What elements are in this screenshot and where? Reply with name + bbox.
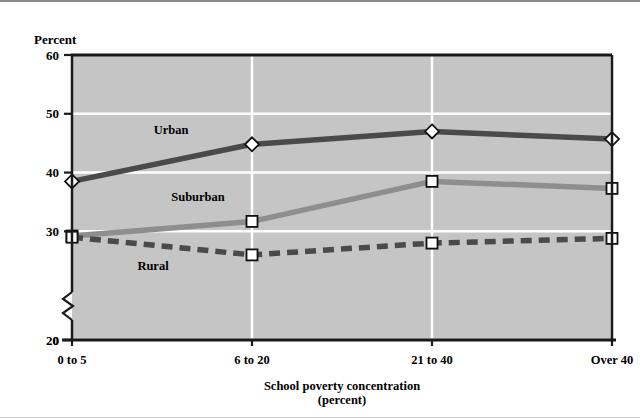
y-axis-tick-label: 30 bbox=[46, 224, 59, 239]
x-axis-title-line2: (percent) bbox=[318, 393, 366, 407]
data-point-marker bbox=[247, 249, 258, 260]
y-axis-tick-label: 60 bbox=[46, 48, 59, 63]
y-axis-tick-label: 20 bbox=[46, 333, 59, 348]
x-axis-category-label: 6 to 20 bbox=[234, 353, 269, 367]
data-point-marker bbox=[427, 238, 438, 249]
line-chart: 02030405060 0 to 56 to 2021 to 40Over 40… bbox=[0, 2, 640, 418]
series-label-rural: Rural bbox=[137, 259, 169, 273]
y-axis-tick-label: 40 bbox=[46, 165, 59, 180]
series-label-urban: Urban bbox=[154, 123, 189, 137]
y-axis-title: Percent bbox=[34, 32, 77, 47]
data-point-marker bbox=[247, 216, 258, 227]
series-label-suburban: Suburban bbox=[171, 190, 225, 204]
x-axis-category-label: 0 to 5 bbox=[57, 353, 86, 367]
y-axis-tick-label: 50 bbox=[46, 106, 59, 121]
data-point-marker bbox=[427, 176, 438, 187]
plot-background bbox=[72, 55, 612, 340]
x-axis-category-label: Over 40 bbox=[591, 353, 633, 367]
x-axis-category-labels: 0 to 56 to 2021 to 40Over 40 bbox=[57, 353, 633, 367]
figure-container: 02030405060 0 to 56 to 2021 to 40Over 40… bbox=[0, 0, 640, 418]
x-axis-category-label: 21 to 40 bbox=[411, 353, 453, 367]
x-axis-title-line1: School poverty concentration bbox=[264, 379, 420, 393]
y-axis-break-icon bbox=[63, 292, 73, 320]
y-axis-tick-labels: 02030405060 bbox=[46, 48, 59, 348]
